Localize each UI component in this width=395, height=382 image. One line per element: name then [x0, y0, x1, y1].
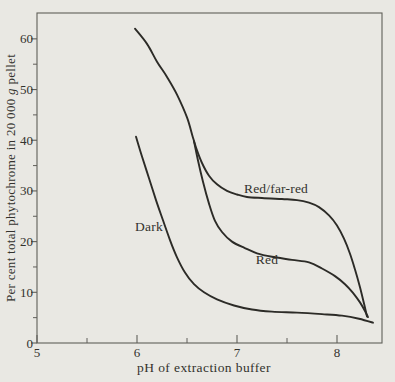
- y-axis-title-pre: Per cent total phytochrome in 20 000: [3, 95, 18, 302]
- y-tick-label-10: 10: [7, 286, 33, 299]
- phytochrome-ph-figure: Per cent total phytochrome in 20 000 g p…: [0, 0, 395, 382]
- y-tick-label-0: 0: [7, 337, 33, 350]
- x-tick-label-7: 7: [234, 346, 241, 359]
- curve-label-red-far-red: Red/far-red: [244, 181, 308, 197]
- y-tick-label-30: 30: [7, 184, 33, 197]
- y-tick-label-20: 20: [7, 235, 33, 248]
- y-tick-label-60: 60: [7, 32, 33, 45]
- curve-red: [194, 141, 368, 317]
- curve-label-dark: Dark: [135, 219, 163, 235]
- curve-dark: [136, 137, 373, 323]
- x-tick-label-8: 8: [334, 346, 341, 359]
- x-tick-label-6: 6: [134, 346, 141, 359]
- x-tick-label-5: 5: [34, 346, 41, 359]
- curve-label-red: Red: [256, 252, 278, 268]
- y-tick-label-40: 40: [7, 134, 33, 147]
- y-tick-label-50: 50: [7, 83, 33, 96]
- chart-canvas: [0, 0, 395, 382]
- x-axis-title: pH of extraction buffer: [137, 360, 271, 376]
- plot-frame: [37, 13, 382, 343]
